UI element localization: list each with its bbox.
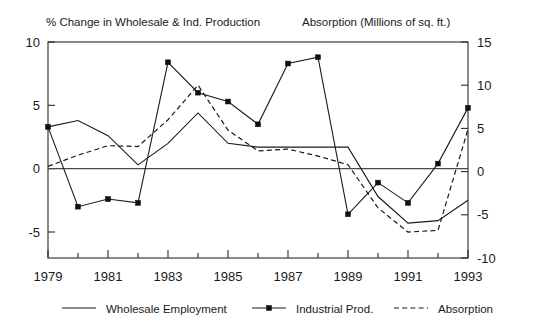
legend-item-label: Industrial Prod. xyxy=(296,303,373,315)
right-tick-label: 10 xyxy=(477,78,491,93)
left-tick-label: -5 xyxy=(28,225,40,240)
data-point-marker xyxy=(256,122,261,127)
data-point-marker xyxy=(136,200,141,205)
series-industrial-prod xyxy=(46,55,471,217)
left-tick-label: 0 xyxy=(33,161,40,176)
series-wholesale-employment xyxy=(48,113,468,223)
right-tick-label: 0 xyxy=(477,164,484,179)
data-point-marker xyxy=(196,90,201,95)
series-absorption xyxy=(48,85,468,232)
data-point-marker xyxy=(376,180,381,185)
left-axis-title: % Change in Wholesale & Ind. Production xyxy=(46,16,260,28)
data-point-marker xyxy=(436,161,441,166)
data-point-marker xyxy=(166,60,171,65)
data-point-marker xyxy=(466,105,471,110)
x-axis-ticks xyxy=(48,250,468,258)
x-tick-label: 1983 xyxy=(154,269,183,284)
data-point-marker xyxy=(76,204,81,209)
data-point-marker xyxy=(316,55,321,60)
plot-area-border xyxy=(48,42,468,258)
left-tick-label: 10 xyxy=(26,35,40,50)
data-point-marker xyxy=(226,99,231,104)
legend-item-label: Absorption xyxy=(438,303,493,315)
legend-marker-sample xyxy=(267,306,272,311)
data-point-marker xyxy=(46,124,51,129)
right-tick-label: 15 xyxy=(477,35,491,50)
x-tick-label: 1981 xyxy=(94,269,123,284)
x-tick-label: 1993 xyxy=(454,269,483,284)
x-axis-tick-labels: 19791981198319851987198919911993 xyxy=(34,269,483,284)
chart-figure: % Change in Wholesale & Ind. Production … xyxy=(0,0,536,326)
x-tick-label: 1991 xyxy=(394,269,423,284)
right-axis-title: Absorption (Millions of sq. ft.) xyxy=(302,16,450,28)
data-point-marker xyxy=(286,61,291,66)
x-tick-label: 1985 xyxy=(214,269,243,284)
right-tick-label: 5 xyxy=(477,121,484,136)
data-point-marker xyxy=(346,212,351,217)
data-point-marker xyxy=(106,197,111,202)
left-axis-tick-labels: 1050-5 xyxy=(26,35,40,240)
left-tick-label: 5 xyxy=(33,98,40,113)
plot-frame xyxy=(48,42,468,258)
series-path xyxy=(48,85,468,232)
data-point-marker xyxy=(406,200,411,205)
right-tick-label: -5 xyxy=(477,207,489,222)
right-tick-label: -10 xyxy=(477,251,496,266)
series-path xyxy=(48,57,468,214)
chart-legend: Wholesale EmploymentIndustrial Prod.Abso… xyxy=(62,303,493,315)
x-tick-label: 1979 xyxy=(34,269,63,284)
x-tick-label: 1989 xyxy=(334,269,363,284)
x-tick-label: 1987 xyxy=(274,269,303,284)
legend-item-label: Wholesale Employment xyxy=(106,303,228,315)
right-axis-tick-labels: 151050-5-10 xyxy=(477,35,496,266)
series-path xyxy=(48,113,468,223)
chart-svg: % Change in Wholesale & Ind. Production … xyxy=(0,0,536,326)
